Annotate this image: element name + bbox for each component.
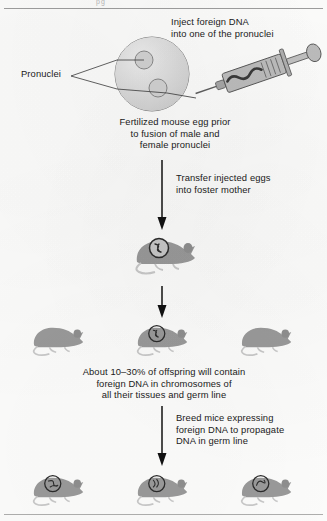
breed-caption: Breed mice expressing foreign DNA to pro… (176, 412, 284, 447)
transgenic-mouse-figure: pg Inject foreign DNA into one of the pr… (0, 0, 327, 521)
offspring-mouse-center (128, 316, 194, 358)
breed-arrow (150, 406, 174, 468)
germline-mouse-right (232, 466, 298, 508)
bottom-rule (4, 514, 323, 515)
pronucleus-lower-icon (149, 79, 167, 97)
transgene-marker-icon (150, 239, 169, 258)
offspring-mouse-right (232, 316, 298, 358)
founder-mouse (125, 228, 203, 276)
offspring-mouse-left (24, 316, 90, 358)
top-rule (4, 8, 323, 9)
pronuclei-label: Pronuclei (21, 68, 61, 80)
syringe-icon (190, 38, 327, 98)
offspring-arrow (150, 286, 174, 320)
cropped-header-text: pg (96, 0, 106, 5)
egg-caption: Fertilized mouse egg prior to fusion of … (60, 116, 290, 151)
offspring-caption: About 10–30% of offspring will contain f… (18, 366, 310, 401)
germline-mouse-center (128, 466, 194, 508)
germline-mouse-left (24, 466, 90, 508)
transfer-arrow (150, 160, 174, 232)
transfer-caption: Transfer injected eggs into foster mothe… (176, 172, 271, 195)
